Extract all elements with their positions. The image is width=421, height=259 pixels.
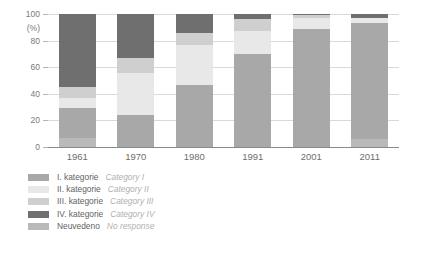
x-axis: 196119701980199120012011 xyxy=(48,150,399,166)
bar-segment[interactable] xyxy=(117,58,154,73)
bar-segment[interactable] xyxy=(59,108,96,137)
gridline-0 xyxy=(48,147,399,148)
bar-slot-1991 xyxy=(224,14,283,147)
bar-slot-2011 xyxy=(341,14,400,147)
bar-segment[interactable] xyxy=(59,14,96,87)
stacked-bar-2001[interactable] xyxy=(293,14,330,147)
legend-label-cs: Neuvedeno xyxy=(57,222,100,231)
y-axis: 100806040200(%) xyxy=(0,0,48,168)
bar-segment[interactable] xyxy=(59,98,96,109)
stacked-bar-1991[interactable] xyxy=(234,14,271,147)
bar-segment[interactable] xyxy=(176,14,213,33)
legend-item[interactable]: III. kategorieCategory III xyxy=(28,196,358,208)
bar-group xyxy=(48,14,399,147)
bar-segment[interactable] xyxy=(117,115,154,147)
legend-swatch-icon xyxy=(28,186,49,193)
bar-slot-2001 xyxy=(282,14,341,147)
y-tick-label-80: 80 xyxy=(31,37,40,46)
legend-label-cs: I. kategorie xyxy=(57,173,98,182)
x-tick-label-2001: 2001 xyxy=(282,150,341,166)
bar-segment[interactable] xyxy=(176,45,213,85)
bar-segment[interactable] xyxy=(293,18,330,29)
bar-segment[interactable] xyxy=(293,29,330,147)
x-tick-label-1991: 1991 xyxy=(224,150,283,166)
legend-swatch-icon xyxy=(28,211,49,218)
legend-swatch-icon xyxy=(28,174,49,181)
bar-slot-1980 xyxy=(165,14,224,147)
legend-label-cs: III. kategorie xyxy=(57,197,103,206)
legend: I. kategorieCategory III. kategorieCateg… xyxy=(28,171,358,232)
bar-segment[interactable] xyxy=(234,31,271,54)
x-tick-label-1961: 1961 xyxy=(48,150,107,166)
bar-segment[interactable] xyxy=(351,23,388,139)
bar-segment[interactable] xyxy=(234,19,271,31)
stacked-bar-chart: 100806040200(%) 196119701980199120012011… xyxy=(0,0,421,259)
stacked-bar-1980[interactable] xyxy=(176,14,213,147)
stacked-bar-1961[interactable] xyxy=(59,14,96,147)
legend-swatch-icon xyxy=(28,223,49,230)
plot-area-wrapper: 100806040200(%) xyxy=(0,0,421,168)
bar-segment[interactable] xyxy=(176,85,213,148)
legend-item[interactable]: II. kategorieCategory II xyxy=(28,183,358,195)
bar-slot-1970 xyxy=(107,14,166,147)
legend-swatch-icon xyxy=(28,198,49,205)
legend-label-en: Category II xyxy=(108,185,149,194)
stacked-bar-2011[interactable] xyxy=(351,14,388,147)
bar-segment[interactable] xyxy=(117,14,154,58)
legend-item[interactable]: NeuvedenoNo response xyxy=(28,220,358,232)
x-tick-label-2011: 2011 xyxy=(341,150,400,166)
legend-label-en: Category III xyxy=(110,197,153,206)
bar-segment[interactable] xyxy=(117,73,154,116)
x-tick-label-1980: 1980 xyxy=(165,150,224,166)
bar-segment[interactable] xyxy=(59,87,96,98)
stacked-bar-1970[interactable] xyxy=(117,14,154,147)
legend-label-cs: II. kategorie xyxy=(57,185,101,194)
y-tick-label-40: 40 xyxy=(31,90,40,99)
legend-label-cs: IV. kategorie xyxy=(57,210,103,219)
legend-label-en: No response xyxy=(107,222,155,231)
legend-item[interactable]: IV. kategorieCategory IV xyxy=(28,208,358,220)
legend-item[interactable]: I. kategorieCategory I xyxy=(28,171,358,183)
y-tick-label-20: 20 xyxy=(31,116,40,125)
bar-segment[interactable] xyxy=(351,139,388,147)
y-tick-label-60: 60 xyxy=(31,63,40,72)
y-tickmark-0 xyxy=(43,147,48,148)
bar-segment[interactable] xyxy=(59,138,96,147)
legend-label-en: Category IV xyxy=(110,210,154,219)
bar-segment[interactable] xyxy=(176,33,213,45)
plot-area xyxy=(48,14,399,147)
y-tick-label-0: 0 xyxy=(35,143,40,152)
y-axis-unit-label: (%) xyxy=(27,24,40,33)
x-tick-label-1970: 1970 xyxy=(107,150,166,166)
y-tick-label-100: 100 xyxy=(26,10,40,19)
bar-segment[interactable] xyxy=(234,54,271,147)
legend-label-en: Category I xyxy=(105,173,144,182)
bar-slot-1961 xyxy=(48,14,107,147)
